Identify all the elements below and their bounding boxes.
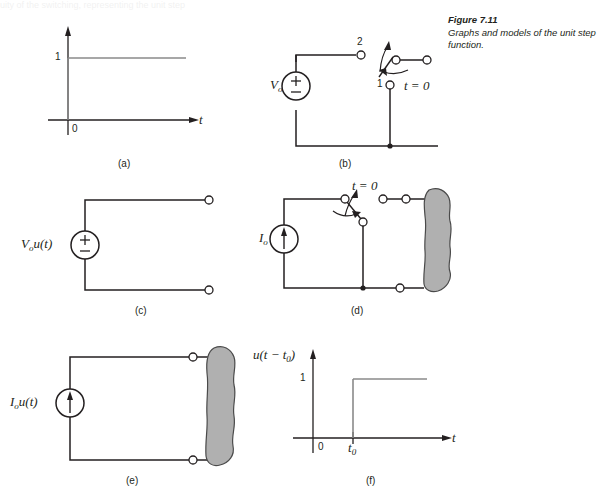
panel-b-terminal-right — [423, 56, 431, 64]
panel-b-arrow-down-arc — [384, 70, 408, 74]
panel-d-terminal-right-bottom — [396, 284, 404, 292]
panel-b-circuit — [282, 41, 438, 149]
panel-f-x-axis-label: t — [452, 430, 456, 446]
panel-d-switch-terminal-bottom — [359, 218, 367, 226]
panel-f-origin-label: 0 — [318, 441, 324, 452]
panel-d-bottom-path — [284, 253, 386, 288]
panel-b-terminal-1 — [386, 81, 394, 89]
panel-e-label: (e) — [126, 475, 138, 486]
panel-c-circuit — [71, 196, 213, 294]
figure-caption: Figure 7.11 Graphs and models of the uni… — [448, 14, 596, 52]
panel-f-x-arrowhead — [442, 435, 452, 441]
panel-c-terminal-bottom — [205, 286, 213, 294]
panel-e-network-blob — [206, 347, 235, 466]
panel-c-label: (c) — [135, 305, 147, 316]
panel-f-t0-tick-label: t0 — [348, 440, 356, 457]
panel-d-switch-terminal-top — [341, 195, 349, 203]
panel-e-source-label: Iou(t) — [10, 394, 38, 411]
panel-f-y-axis-label: u(t − t0) — [253, 347, 295, 364]
panel-f-step-curve — [353, 379, 427, 438]
panel-d-top-path — [284, 199, 341, 225]
panel-b-arrow-up-head — [384, 41, 391, 50]
panel-d-node-dot — [360, 285, 365, 290]
panel-c-terminal-top — [205, 196, 213, 204]
panel-b-terminal-2 — [357, 51, 365, 59]
panel-f-y-tick-label: 1 — [300, 372, 306, 383]
panel-d-network-blob — [424, 189, 451, 292]
figure-caption-title: Figure 7.11 — [448, 14, 596, 27]
panel-a-y-arrowhead — [65, 26, 71, 36]
panel-e-top-path — [70, 357, 189, 389]
panel-f-y-arrowhead — [310, 349, 316, 359]
panel-b-label: (b) — [339, 158, 351, 169]
panel-a-y-tick-label: 1 — [55, 51, 61, 62]
panel-f-graph — [293, 349, 452, 453]
panel-d-label: (d) — [351, 305, 363, 316]
panel-e-terminal-bottom — [189, 456, 197, 464]
panel-a-x-arrowhead — [189, 117, 199, 123]
panel-b-bottom-path — [296, 110, 390, 146]
panel-e-terminal-top — [189, 353, 197, 361]
panel-f-label: (f) — [366, 475, 375, 486]
panel-a-label: (a) — [118, 158, 130, 169]
panel-b-source-label: Vo — [270, 77, 282, 94]
figure-container: uity of the switching, representing the … — [0, 0, 601, 499]
panel-a-graph — [48, 26, 199, 135]
panel-b-terminal-2-label: 2 — [357, 36, 363, 47]
panel-a-x-axis-label: t — [199, 112, 203, 128]
panel-c-top-path — [85, 200, 205, 231]
panel-b-terminal-1-label: 1 — [377, 78, 383, 89]
panel-e-circuit — [56, 353, 211, 464]
panel-d-source-label: Io — [259, 230, 268, 247]
panel-c-source-label: Vou(t) — [21, 236, 52, 253]
panel-b-node-dot — [387, 143, 392, 148]
panel-c-bottom-path — [85, 259, 205, 290]
figure-caption-body: Graphs and models of the unit step funct… — [448, 27, 596, 51]
panel-d-switch-time-label: t = 0 — [352, 178, 377, 194]
figure-drawing — [0, 0, 601, 499]
panel-d-circuit — [270, 189, 426, 292]
panel-d-terminal-mid — [379, 195, 387, 203]
panel-d-terminal-right-top — [402, 195, 410, 203]
panel-e-bottom-path — [70, 417, 189, 460]
panel-b-switch-time-label: t = 0 — [404, 78, 429, 94]
panel-a-step-curve — [68, 58, 186, 120]
panel-a-origin-label: 0 — [72, 123, 78, 134]
